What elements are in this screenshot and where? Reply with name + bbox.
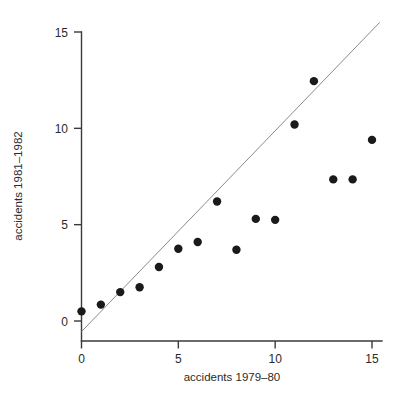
y-tick-label: 15 bbox=[55, 26, 69, 40]
data-point bbox=[368, 136, 376, 144]
y-tick-label: 5 bbox=[61, 218, 68, 232]
plot-canvas: 051015 051015 accidents 1979–80 accident… bbox=[0, 0, 405, 400]
data-point bbox=[348, 175, 356, 183]
data-point bbox=[97, 300, 105, 308]
x-tick-label: 0 bbox=[78, 352, 85, 366]
data-point bbox=[252, 215, 260, 223]
y-tick-label: 0 bbox=[61, 315, 68, 329]
data-point bbox=[213, 197, 221, 205]
x-axis-ticks: 051015 bbox=[78, 341, 379, 366]
data-point bbox=[135, 283, 143, 291]
y-axis-ticks: 051015 bbox=[55, 26, 82, 329]
data-point bbox=[194, 238, 202, 246]
data-point bbox=[155, 263, 163, 271]
data-point bbox=[290, 120, 298, 128]
data-point bbox=[329, 175, 337, 183]
data-points bbox=[77, 77, 376, 316]
x-tick-label: 5 bbox=[175, 352, 182, 366]
data-point bbox=[310, 77, 318, 85]
data-point bbox=[77, 307, 85, 315]
data-point bbox=[174, 245, 182, 253]
x-axis-title: accidents 1979–80 bbox=[184, 371, 281, 383]
scatter-plot-figure: 051015 051015 accidents 1979–80 accident… bbox=[0, 0, 405, 400]
x-tick-label: 10 bbox=[268, 352, 282, 366]
x-tick-label: 15 bbox=[365, 352, 379, 366]
data-point bbox=[271, 216, 279, 224]
data-point bbox=[232, 246, 240, 254]
data-point bbox=[116, 288, 124, 296]
y-tick-label: 10 bbox=[55, 122, 69, 136]
y-axis-title: accidents 1981–1982 bbox=[12, 131, 24, 240]
